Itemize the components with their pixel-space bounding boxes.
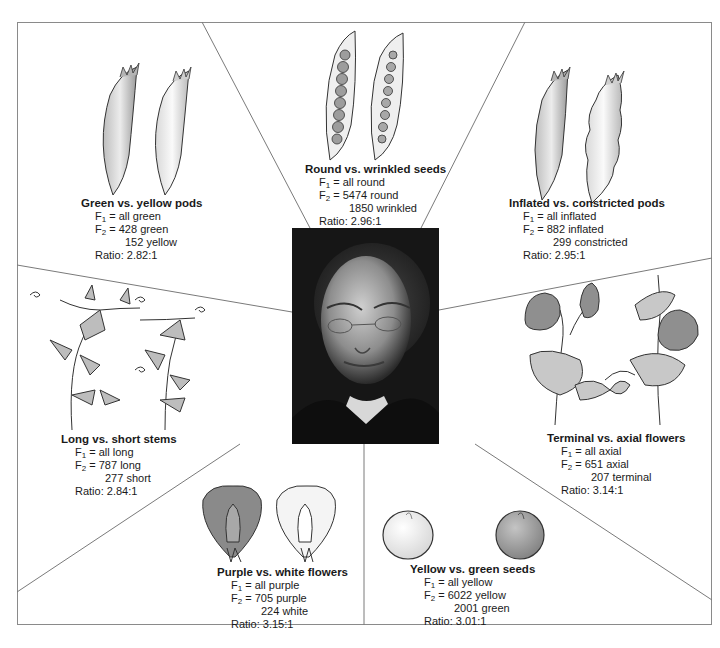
f2-result-recessive: 1850 wrinkled xyxy=(305,202,446,215)
f1-result: F1 = all purple xyxy=(217,579,348,592)
ratio: Ratio: 2.84:1 xyxy=(61,485,177,498)
ratio: Ratio: 2.82:1 xyxy=(81,249,202,262)
stem-length-illustration xyxy=(20,280,220,430)
ratio: Ratio: 2.95:1 xyxy=(509,249,665,262)
trait-label-seed-shape: Round vs. wrinkled seeds F1 = all round … xyxy=(305,163,446,228)
f2-result-recessive: 277 short xyxy=(61,472,177,485)
f1-result: F1 = all round xyxy=(305,176,446,189)
seed-color-illustration xyxy=(380,505,560,560)
mendel-portrait xyxy=(292,228,439,444)
f2-result: F2 = 882 inflated xyxy=(509,223,665,236)
f1-result: F1 = all yellow xyxy=(410,576,535,589)
trait-label-flower-color: Purple vs. white flowers F1 = all purple… xyxy=(217,566,348,631)
f2-result: F2 = 428 green xyxy=(81,223,202,236)
f2-result: F2 = 651 axial xyxy=(547,458,686,471)
f2-result: F2 = 6022 yellow xyxy=(410,589,535,602)
f1-result: F1 = all long xyxy=(61,446,177,459)
trait-title: Round vs. wrinkled seeds xyxy=(305,163,446,176)
ratio: Ratio: 3.15:1 xyxy=(217,618,348,631)
trait-label-pods-color: Green vs. yellow pods F1 = all green F2 … xyxy=(81,197,202,262)
flower-color-illustration xyxy=(195,482,355,562)
trait-title: Terminal vs. axial flowers xyxy=(547,432,686,445)
flower-position-illustration xyxy=(510,275,710,425)
f1-result: F1 = all green xyxy=(81,210,202,223)
trait-label-stem-length: Long vs. short stems F1 = all long F2 = … xyxy=(61,433,177,498)
f2-result-recessive: 299 constricted xyxy=(509,236,665,249)
f2-result-recessive: 2001 green xyxy=(410,602,535,615)
trait-title: Long vs. short stems xyxy=(61,433,177,446)
f2-result-recessive: 152 yellow xyxy=(81,236,202,249)
f1-result: F1 = all inflated xyxy=(509,210,665,223)
ratio: Ratio: 2.96:1 xyxy=(305,215,446,228)
trait-title: Inflated vs. constricted pods xyxy=(509,197,665,210)
f2-result: F2 = 787 long xyxy=(61,459,177,472)
ratio: Ratio: 3.01:1 xyxy=(410,615,535,628)
pods-color-illustration xyxy=(85,55,195,200)
trait-label-seed-color: Yellow vs. green seeds F1 = all yellow F… xyxy=(410,563,535,628)
ratio: Ratio: 3.14:1 xyxy=(547,484,686,497)
f1-result: F1 = all axial xyxy=(547,445,686,458)
pod-shape-illustration xyxy=(520,55,640,205)
trait-label-pod-shape: Inflated vs. constricted pods F1 = all i… xyxy=(509,197,665,262)
f2-result-recessive: 207 terminal xyxy=(547,471,686,484)
seed-shape-illustration xyxy=(315,25,425,165)
trait-title: Green vs. yellow pods xyxy=(81,197,202,210)
trait-label-flower-position: Terminal vs. axial flowers F1 = all axia… xyxy=(547,432,686,497)
f2-result: F2 = 5474 round xyxy=(305,189,446,202)
f2-result-recessive: 224 white xyxy=(217,605,348,618)
trait-title: Yellow vs. green seeds xyxy=(410,563,535,576)
f2-result: F2 = 705 purple xyxy=(217,592,348,605)
trait-title: Purple vs. white flowers xyxy=(217,566,348,579)
